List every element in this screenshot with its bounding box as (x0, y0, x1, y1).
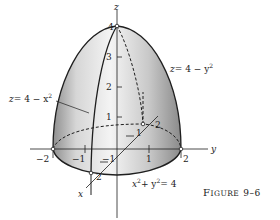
y-axis-label: y (210, 144, 217, 154)
point-y-2 (179, 147, 183, 151)
point-apex (115, 24, 119, 28)
y-tick-neg2: −2 (36, 154, 49, 164)
point-x-2 (89, 171, 93, 175)
point-x-neg2 (141, 122, 145, 126)
z-tick-2: 2 (106, 82, 112, 92)
z-tick-4: 4 (108, 22, 114, 32)
equation-z-4-x2: z= 4 − x2 (8, 92, 52, 104)
figure-diagram: z y x 1 2 3 4 −2 −1 1 2 −1 1 2 2 z= 4 − … (0, 0, 280, 220)
z-tick-1: 1 (106, 112, 112, 122)
y-tick-neg1: −1 (72, 154, 85, 164)
x-tick-2-front: 2 (96, 172, 102, 182)
x-tick-1: 1 (136, 128, 142, 138)
equation-z-4-y2: z= 4 − y2 (169, 62, 213, 74)
z-axis-label: z (113, 2, 119, 12)
equation-circle: x2+ y2= 4 (132, 177, 177, 189)
x-tick-2-back: 2 (155, 120, 161, 130)
y-tick-1: 1 (146, 154, 152, 164)
x-axis-label: x (78, 189, 83, 199)
figure-caption: FIGURE9–6 (203, 187, 261, 198)
z-tick-3: 3 (106, 52, 112, 62)
x-tick-neg1: −1 (102, 154, 115, 164)
y-tick-2: 2 (183, 154, 189, 164)
point-y-neg2 (51, 147, 55, 151)
